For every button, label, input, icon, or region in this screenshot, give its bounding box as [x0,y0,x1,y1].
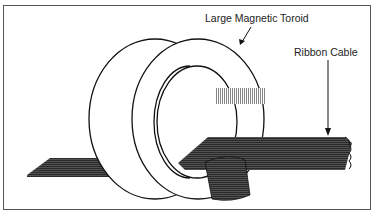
cable-wrap [205,156,250,200]
ribbon-cable-right [178,137,352,170]
cable-arrowhead [325,128,331,136]
toroid-label: Large Magnetic Toroid [205,12,309,24]
toroid-arrowhead [239,39,245,45]
winding-hatch [215,88,265,104]
toroid-diagram [0,0,377,215]
toroid-leader-line [242,27,251,42]
cable-label: Ribbon Cable [294,46,358,58]
